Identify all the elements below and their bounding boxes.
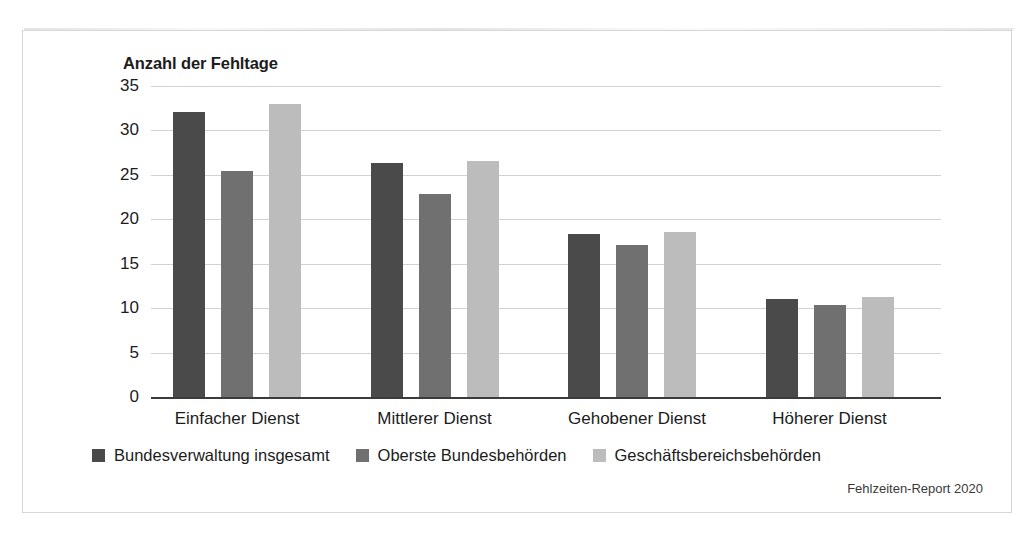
bar — [766, 299, 798, 397]
legend-swatch-icon — [593, 449, 606, 462]
legend-label: Bundesverwaltung insgesamt — [114, 446, 330, 465]
y-tick-label-15: 15 — [120, 253, 139, 273]
x-axis-label: Einfacher Dienst — [173, 409, 301, 429]
bar — [173, 112, 205, 397]
y-tick-label-35: 35 — [120, 76, 139, 96]
source-note: Fehlzeiten-Report 2020 — [847, 481, 983, 496]
bar-group: Gehobener Dienst — [568, 86, 696, 397]
x-axis-label: Mittlerer Dienst — [371, 409, 499, 429]
bar — [814, 305, 846, 397]
bar — [862, 297, 894, 397]
bar-group: Einfacher Dienst — [173, 86, 301, 397]
gridline-0 — [151, 397, 941, 399]
y-tick-label-30: 30 — [120, 120, 139, 140]
bar — [269, 104, 301, 397]
legend-swatch-icon — [356, 449, 369, 462]
bar-series-layer: Einfacher DienstMittlerer DienstGehobene… — [151, 86, 941, 397]
y-tick-label-20: 20 — [120, 209, 139, 229]
legend-label: Geschäftsbereichsbehörden — [615, 446, 821, 465]
y-tick-label-25: 25 — [120, 164, 139, 184]
legend-item: Oberste Bundesbehörden — [356, 446, 567, 465]
bar — [221, 171, 253, 397]
chart-legend: Bundesverwaltung insgesamtOberste Bundes… — [92, 446, 821, 465]
bar — [568, 234, 600, 397]
bar — [664, 232, 696, 397]
legend-label: Oberste Bundesbehörden — [378, 446, 567, 465]
chart-title: Anzahl der Fehltage — [123, 54, 278, 73]
bar — [616, 245, 648, 397]
y-tick-label-10: 10 — [120, 298, 139, 318]
y-tick-label-0: 0 — [130, 387, 139, 407]
x-axis-label: Gehobener Dienst — [568, 409, 696, 429]
bar — [419, 194, 451, 397]
x-axis-label: Höherer Dienst — [766, 409, 894, 429]
bar — [371, 163, 403, 397]
bar-group: Mittlerer Dienst — [371, 86, 499, 397]
y-tick-label-5: 5 — [130, 342, 139, 362]
legend-item: Bundesverwaltung insgesamt — [92, 446, 330, 465]
chart-figure-frame: Anzahl der Fehltage 35302520151050 Einfa… — [22, 30, 1012, 513]
legend-swatch-icon — [92, 449, 105, 462]
plot-area: 35302520151050 Einfacher DienstMittlerer… — [151, 86, 941, 397]
bar-group: Höherer Dienst — [766, 86, 894, 397]
legend-item: Geschäftsbereichsbehörden — [593, 446, 821, 465]
bar — [467, 161, 499, 397]
